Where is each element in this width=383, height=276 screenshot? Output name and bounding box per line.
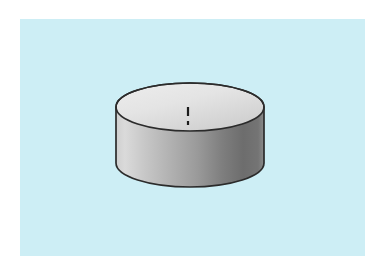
cylinder-figure-svg: Solid of revolution: right circular cyli… — [0, 0, 383, 276]
cylinder-solid — [116, 83, 264, 187]
figure-root: Solid of revolution: right circular cyli… — [0, 0, 383, 276]
